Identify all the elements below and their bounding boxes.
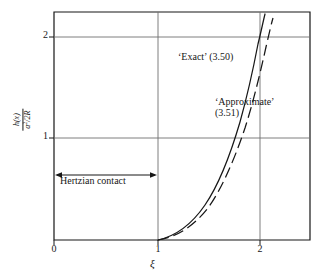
y-axis-denominator-exponent: 2 xyxy=(21,122,27,125)
y-axis-denominator-base: a xyxy=(23,125,32,129)
tick-marks xyxy=(49,37,260,245)
approximate-curve-label-line2: (3.51) xyxy=(215,108,274,119)
hertzian-contact-label: Hertzian contact xyxy=(60,176,126,187)
y-axis-label-numerator: h(x) xyxy=(13,109,22,131)
approximate-curve-label: ‘Approximate’ (3.51) xyxy=(215,97,274,118)
plot-frame xyxy=(54,12,310,240)
curve-exact xyxy=(158,14,265,240)
figure-container: h(x) a2/2R 2 1 0 1 2 ξ Hertzian contact … xyxy=(0,0,323,278)
frame-border xyxy=(54,12,310,240)
y-tick-label-2: 2 xyxy=(32,30,48,41)
approximate-curve-label-line1: ‘Approximate’ xyxy=(215,96,274,107)
plot-svg xyxy=(0,0,323,278)
exact-curve-label: ‘Exact’ (3.50) xyxy=(178,52,233,63)
x-tick-label-2: 2 xyxy=(253,244,267,255)
x-tick-label-1: 1 xyxy=(151,244,165,255)
y-tick-label-1: 1 xyxy=(32,131,48,142)
gridlines xyxy=(54,12,310,240)
y-axis-label-denominator: a2/2R xyxy=(24,109,33,131)
x-tick-label-0: 0 xyxy=(47,244,61,255)
hertzian-arrow-head-right xyxy=(150,172,157,177)
y-axis-denominator-rest: /2R xyxy=(23,111,32,122)
x-axis-label: ξ xyxy=(150,258,155,270)
